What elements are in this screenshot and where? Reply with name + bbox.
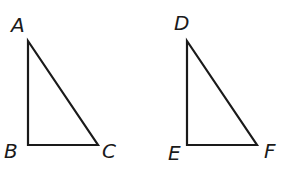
vertex-label-f: F [264,139,276,163]
triangle-def-shape [187,41,257,145]
triangle-def: D E F [168,11,276,165]
triangle-abc-shape [28,41,98,145]
vertex-label-d: D [174,11,189,35]
triangle-abc: A B C [4,13,116,163]
vertex-label-c: C [102,139,116,163]
vertex-label-a: A [9,13,25,37]
vertex-label-e: E [168,141,181,165]
diagram-canvas: A B C D E F [0,0,288,169]
vertex-label-b: B [4,139,18,163]
